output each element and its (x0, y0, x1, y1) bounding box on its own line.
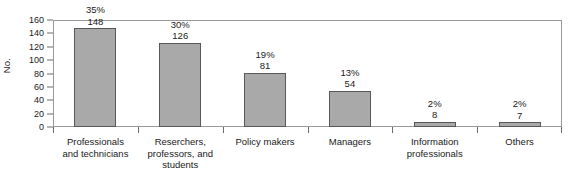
bar-group: 2%8 (392, 20, 477, 127)
y-axis-tick-label: 100 (29, 56, 44, 65)
bar-value-labels: 2%8 (392, 98, 477, 121)
y-axis-tick-label: 120 (29, 42, 44, 51)
y-axis-tick-mark (47, 20, 53, 21)
y-axis-tick-label: 20 (34, 109, 44, 118)
x-axis-category-label-line: students (140, 159, 221, 171)
y-axis-tick-mark (47, 46, 53, 47)
y-axis-tick-label: 80 (34, 69, 44, 78)
x-axis-category-label: Professionalsand technicians (53, 136, 138, 171)
x-axis-category-label-line: professionals (394, 148, 475, 160)
bar-rect[interactable] (159, 43, 201, 127)
x-axis-tick-marks (53, 127, 562, 134)
x-axis-category-label-line: Managers (309, 136, 390, 148)
bar-value-labels: 30%126 (138, 19, 223, 42)
x-axis-tick-mark (561, 127, 562, 133)
bar-group: 30%126 (138, 20, 223, 127)
bar-count-label: 54 (307, 78, 392, 90)
bar-value-labels: 35%148 (53, 4, 138, 27)
y-axis-tick-mark (47, 127, 53, 128)
x-axis-tick-mark (477, 127, 478, 133)
y-axis-tick-mark (47, 73, 53, 74)
bar-value-labels: 2%7 (477, 98, 562, 121)
x-axis-tick-mark (392, 127, 393, 133)
x-axis-category-label: Informationprofessionals (392, 136, 477, 171)
y-axis-tick-label: 0 (39, 123, 44, 132)
y-axis-tick-label: 140 (29, 29, 44, 38)
bar-percent-label: 2% (392, 98, 477, 110)
bar-count-label: 126 (138, 30, 223, 42)
x-axis-tick-mark (53, 127, 54, 133)
y-axis-title: No. (0, 0, 14, 130)
y-axis-tick-mark (47, 33, 53, 34)
x-axis-category-label: Others (477, 136, 562, 171)
bar-percent-label: 30% (138, 19, 223, 31)
x-axis-category-label-line: Policy makers (225, 136, 306, 148)
bar-group: 13%54 (307, 20, 392, 127)
bar-count-label: 148 (53, 16, 138, 28)
x-axis-category-labels: Professionalsand techniciansReserchers,p… (53, 136, 562, 171)
x-axis-category-label: Managers (307, 136, 392, 171)
bar-rect[interactable] (329, 91, 371, 127)
bar-percent-label: 19% (223, 49, 308, 61)
bar-percent-label: 2% (477, 98, 562, 110)
bar-chart: No. 160140120100806040200 35%14830%12619… (0, 0, 577, 178)
x-axis-category-label: Reserchers,professors, andstudents (138, 136, 223, 171)
bar-count-label: 8 (392, 109, 477, 121)
y-axis-tick-mark (47, 60, 53, 61)
y-axis-title-label: No. (2, 57, 13, 72)
y-axis-tick-mark (47, 100, 53, 101)
x-axis-category-label-line: Others (479, 136, 560, 148)
bar-group: 2%7 (477, 20, 562, 127)
y-axis-tick-mark (47, 113, 53, 114)
bar-percent-label: 13% (307, 67, 392, 79)
bars-layer: 35%14830%12619%8113%542%82%7 (53, 20, 562, 127)
y-axis-tick-label: 60 (34, 82, 44, 91)
x-axis-tick-mark (138, 127, 139, 133)
x-axis-category-label-line: Reserchers, (140, 136, 221, 148)
y-axis-tick-label: 40 (34, 96, 44, 105)
x-axis-category-label-line: professors, and (140, 148, 221, 160)
x-axis-category-label: Policy makers (223, 136, 308, 171)
x-axis-category-label-line: Professionals (55, 136, 136, 148)
y-axis-tick-labels: 160140120100806040200 (14, 20, 47, 127)
bar-count-label: 81 (223, 60, 308, 72)
x-axis-category-label-line: Information (394, 136, 475, 148)
bar-group: 35%148 (53, 20, 138, 127)
x-axis-tick-mark (308, 127, 309, 133)
bar-percent-label: 35% (53, 4, 138, 16)
bar-count-label: 7 (477, 110, 562, 122)
x-axis-category-label-line: and technicians (55, 148, 136, 160)
bar-value-labels: 13%54 (307, 67, 392, 90)
y-axis-tick-mark (47, 86, 53, 87)
x-axis-tick-mark (223, 127, 224, 133)
bar-group: 19%81 (223, 20, 308, 127)
bar-rect[interactable] (74, 28, 116, 127)
bar-rect[interactable] (244, 73, 286, 127)
y-axis-tick-label: 160 (29, 16, 44, 25)
bar-value-labels: 19%81 (223, 49, 308, 72)
